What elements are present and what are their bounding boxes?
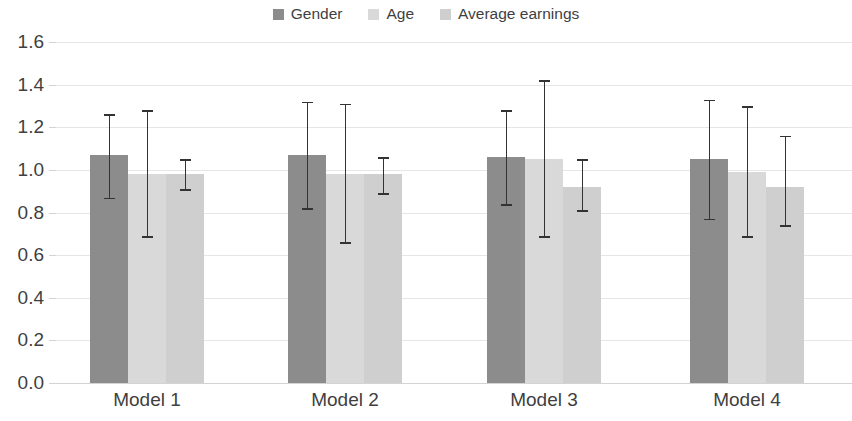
y-axis-tick-label: 1.0 (0, 160, 44, 179)
gridline (56, 170, 852, 171)
error-bar-cap-upper (104, 114, 115, 116)
y-axis-tick-label: 0.8 (0, 203, 44, 222)
error-bar-cap-lower (302, 208, 313, 210)
plot-area: 0.00.20.40.60.81.01.21.41.6Model 1Model … (0, 0, 852, 421)
error-bar-cap-lower (780, 225, 791, 227)
bar (364, 174, 402, 383)
gridline (56, 127, 852, 128)
x-axis-tick-label: Model 2 (275, 390, 415, 409)
y-axis-tick-label: 0.2 (0, 330, 44, 349)
y-axis-tick-mark (49, 42, 56, 43)
error-bar-line (582, 159, 583, 210)
error-bar-line (147, 110, 148, 236)
bar-chart: GenderAgeAverage earnings 0.00.20.40.60.… (0, 0, 852, 421)
y-axis-tick-mark (49, 213, 56, 214)
y-axis-tick-label: 1.4 (0, 75, 44, 94)
error-bar-line (185, 159, 186, 189)
error-bar-line (785, 136, 786, 226)
error-bar-cap-lower (142, 236, 153, 238)
error-bar-line (307, 102, 308, 209)
gridline (56, 42, 852, 43)
error-bar-cap-lower (501, 204, 512, 206)
error-bar-cap-upper (742, 106, 753, 108)
error-bar-cap-lower (539, 236, 550, 238)
error-bar-cap-lower (742, 236, 753, 238)
error-bar-line (709, 100, 710, 219)
error-bar-cap-upper (180, 159, 191, 161)
error-bar-line (345, 104, 346, 243)
y-axis-tick-mark (49, 127, 56, 128)
y-axis-tick-mark (49, 255, 56, 256)
y-axis-tick-mark (49, 170, 56, 171)
error-bar-cap-upper (340, 104, 351, 106)
bar (166, 174, 204, 383)
y-axis-tick-mark (49, 85, 56, 86)
error-bar-cap-lower (104, 198, 115, 200)
error-bar-line (544, 80, 545, 236)
error-bar-line (109, 114, 110, 197)
error-bar-cap-upper (704, 100, 715, 102)
gridline (56, 383, 852, 384)
y-axis-tick-label: 1.2 (0, 117, 44, 136)
y-axis-tick-label: 0.0 (0, 373, 44, 392)
error-bar-cap-upper (780, 136, 791, 138)
bar (563, 187, 601, 383)
error-bar-cap-upper (501, 110, 512, 112)
y-axis-tick-mark (49, 298, 56, 299)
y-axis-tick-label: 0.6 (0, 245, 44, 264)
y-axis-tick-mark (49, 383, 56, 384)
y-axis-tick-label: 0.4 (0, 288, 44, 307)
x-axis-tick-label: Model 4 (677, 390, 817, 409)
error-bar-cap-upper (378, 157, 389, 159)
error-bar-line (747, 106, 748, 236)
error-bar-cap-lower (340, 242, 351, 244)
error-bar-line (383, 157, 384, 193)
y-axis-tick-label: 1.6 (0, 32, 44, 51)
x-axis-tick-label: Model 3 (474, 390, 614, 409)
error-bar-cap-lower (577, 210, 588, 212)
y-axis-tick-mark (49, 340, 56, 341)
error-bar-cap-lower (378, 193, 389, 195)
gridline (56, 85, 852, 86)
error-bar-cap-upper (302, 102, 313, 104)
error-bar-cap-upper (142, 110, 153, 112)
error-bar-cap-lower (180, 189, 191, 191)
error-bar-cap-upper (539, 80, 550, 82)
error-bar-cap-upper (577, 159, 588, 161)
x-axis-tick-label: Model 1 (77, 390, 217, 409)
error-bar-line (506, 110, 507, 204)
error-bar-cap-lower (704, 219, 715, 221)
